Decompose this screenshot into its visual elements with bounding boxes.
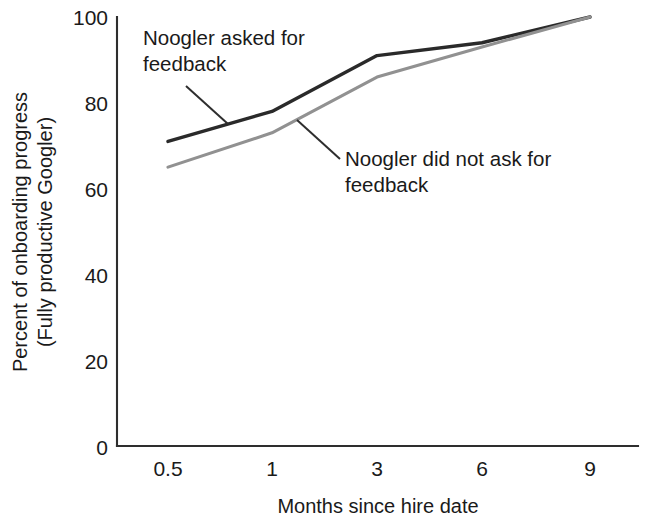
annotation-asked-line2: feedback xyxy=(143,52,227,75)
x-tick-label-2: 3 xyxy=(371,457,383,480)
y-tick-label-0: 0 xyxy=(96,436,108,459)
y-tick-label-60: 60 xyxy=(85,178,108,201)
y-axis-title-line2: (Fully productive Googler) xyxy=(34,117,56,347)
x-tick-label-4: 9 xyxy=(584,457,596,480)
y-tick-label-20: 20 xyxy=(85,350,108,373)
y-axis-title-line1: Percent of onboarding progress xyxy=(9,92,31,372)
y-tick-label-40: 40 xyxy=(85,264,108,287)
y-tick-label-100: 100 xyxy=(73,6,108,29)
y-tick-label-80: 80 xyxy=(85,92,108,115)
chart-container: 100 80 60 40 20 0 0.5 1 3 6 9 Months sin… xyxy=(0,0,656,528)
x-tick-label-0: 0.5 xyxy=(153,457,182,480)
annotation-did-not-ask-line2: feedback xyxy=(345,173,429,196)
x-tick-label-3: 6 xyxy=(476,457,488,480)
annotation-asked-line1: Noogler asked for xyxy=(143,26,305,49)
onboarding-progress-line-chart: 100 80 60 40 20 0 0.5 1 3 6 9 Months sin… xyxy=(0,0,656,528)
x-axis-title: Months since hire date xyxy=(277,495,478,517)
x-tick-label-1: 1 xyxy=(266,457,278,480)
annotation-did-not-ask-line1: Noogler did not ask for xyxy=(345,147,551,170)
